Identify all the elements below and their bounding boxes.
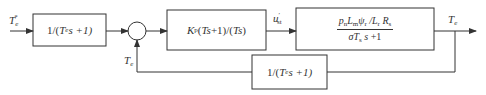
pi-controller-block: Kp(Ts +1)/(Ts) [167,10,266,50]
control-sub: st [277,18,282,26]
text-part: Ts [201,24,210,36]
feedback-sub: e [130,60,133,68]
text-part: R [380,15,389,26]
text-part: 1/( [267,66,279,78]
text-part: +1 [368,31,381,42]
output-label: Te [448,13,457,27]
control-signal-label: u′st [273,11,282,26]
text-part: ) [242,24,246,36]
text-part: s [389,20,392,28]
input-label: Te* [9,13,18,28]
text-part: K [187,24,194,36]
output-sub: e [454,19,457,27]
plant-denominator: σTs s +1 [349,30,382,44]
text-part: s +1) [288,66,312,78]
summing-junction [128,22,146,40]
input-sub: e [15,20,18,28]
feedback-label: Te [124,54,133,68]
text-part: +1)/( [211,24,233,36]
text-part: Ts [233,24,242,36]
plant-fraction: pnLmψr /Lr Rs σTs s +1 [337,15,394,44]
plant-numerator: pnLmψr /Lr Rs [337,15,394,30]
text-part: σT [349,31,360,42]
text-part: s +1) [68,24,92,36]
prefilter-block: 1/(Tes +1) [33,14,106,46]
text-part: 1/( [47,24,59,36]
feedback-filter-block: 1/(Tes +1) [252,55,327,89]
plant-block: pnLmψr /Lr Rs σTs s +1 [296,8,434,50]
input-sup: * [14,13,18,21]
